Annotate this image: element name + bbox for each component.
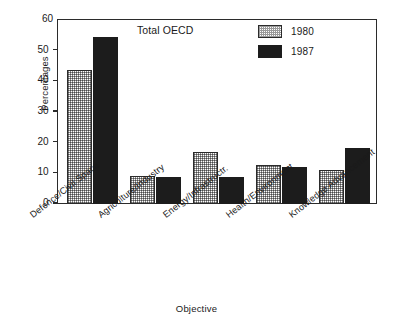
bar-group-defence-civil-space — [67, 19, 118, 204]
bar-1987-defence-civil-space — [93, 37, 118, 204]
legend: 1980 1987 — [258, 23, 314, 63]
legend-item-1980: 1980 — [258, 23, 314, 40]
bar-1987-knowledge-advancement — [345, 148, 370, 204]
y-tick-label-0: 0 — [43, 198, 53, 208]
legend-swatch-1980 — [258, 25, 282, 38]
bar-chart: Percentages 0 10 20 30 40 50 60 T — [0, 0, 393, 332]
bar-1980-energy-infrastructure — [193, 152, 218, 204]
y-tick-label-20: 20 — [37, 137, 52, 147]
bar-1980-knowledge-advancement — [319, 170, 344, 204]
chart-title: Total OECD — [137, 24, 193, 36]
legend-swatch-1987 — [258, 45, 282, 58]
legend-label-1987: 1987 — [291, 46, 314, 57]
x-axis-title: Objective — [0, 303, 393, 314]
y-tick-label-50: 50 — [37, 45, 52, 55]
y-tick-label-30: 30 — [37, 106, 52, 116]
bars-layer — [57, 19, 377, 204]
y-tick-label-10: 10 — [37, 167, 52, 177]
bar-1980-agriculture-industry — [130, 176, 155, 204]
bar-group-energy-infrastructure — [193, 19, 244, 204]
y-tick-label-60: 60 — [42, 14, 57, 24]
bar-1987-health-environment — [282, 167, 307, 204]
bar-group-agriculture-industry — [130, 19, 181, 204]
bar-1987-energy-infrastructure — [219, 177, 244, 204]
bar-1980-health-environment — [256, 165, 281, 204]
bar-group-knowledge-advancement — [319, 19, 370, 204]
legend-label-1980: 1980 — [291, 26, 314, 37]
bar-1980-defence-civil-space — [67, 70, 92, 204]
bar-1987-agriculture-industry — [156, 177, 181, 204]
y-tick-label-40: 40 — [37, 75, 52, 85]
legend-item-1987: 1987 — [258, 43, 314, 60]
